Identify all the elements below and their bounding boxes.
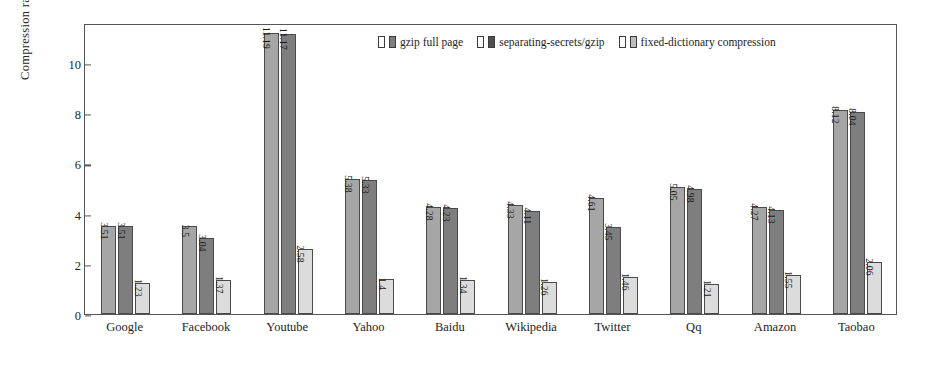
bar-group: 4.274.131.55 [752, 25, 801, 314]
bar-value-label: 8.12 [830, 107, 840, 124]
bar: 8.04 [850, 112, 865, 314]
bar-value-label: 11.17 [278, 28, 288, 50]
y-tick-label: 2 [55, 258, 81, 273]
bar: 11.19 [264, 33, 279, 314]
bar: 11.17 [281, 34, 296, 314]
bar-value-label: 5.38 [343, 175, 353, 192]
bar-group: 5.054.981.21 [670, 25, 719, 314]
legend-swatch-outline-icon [378, 36, 385, 48]
bar: 1.23 [135, 283, 150, 314]
bar-value-label: 1.26 [539, 279, 549, 296]
y-tick-label: 4 [55, 208, 81, 223]
bar: 1.21 [704, 284, 719, 314]
bar-value-label: 4.33 [505, 202, 515, 219]
bar-chart-figure: Compression ratio 0246810 3.513.511.233.… [0, 0, 935, 365]
bar-value-label: 4.13 [766, 207, 776, 224]
bar-value-label: 4.27 [749, 203, 759, 220]
bar-group: 3.513.511.23 [101, 25, 150, 314]
bar-group: 4.334.111.26 [508, 25, 557, 314]
bar-group: 11.1911.172.58 [264, 25, 313, 314]
legend-label: gzip full page [400, 36, 463, 48]
bar-series-container: 3.513.511.233.53.041.3711.1911.172.585.3… [85, 25, 896, 314]
y-tick-label: 8 [55, 108, 81, 123]
bar-value-label: 4.61 [586, 195, 596, 212]
bar-value-label: 5.05 [668, 184, 678, 201]
bar: 1.55 [786, 275, 801, 314]
bar: 8.12 [833, 110, 848, 314]
x-axis-label: Baidu [435, 320, 465, 335]
bar: 4.98 [687, 189, 702, 314]
bar: 2.06 [867, 262, 882, 314]
bar-value-label: 1.37 [214, 276, 224, 293]
x-axis-label: Youtube [266, 320, 308, 335]
bar: 3.04 [199, 238, 214, 314]
bar-group: 4.284.231.34 [426, 25, 475, 314]
legend-item: separating-secrets/gzip [477, 36, 604, 48]
bar: 3.5 [182, 226, 197, 314]
x-axis-label: Facebook [182, 320, 231, 335]
x-axis-label: Wikipedia [505, 320, 557, 335]
bar-value-label: 4.23 [441, 204, 451, 221]
bar: 2.58 [298, 249, 313, 314]
bar: 5.05 [670, 187, 685, 314]
bar: 4.28 [426, 207, 441, 314]
y-tick-label: 10 [55, 58, 81, 73]
legend-label: separating-secrets/gzip [499, 36, 604, 48]
legend-label: fixed-dictionary compression [641, 36, 776, 48]
x-axis-label: Twitter [594, 320, 630, 335]
bar-value-label: 3.04 [197, 234, 207, 251]
bar-group: 3.53.041.37 [182, 25, 231, 314]
bar-value-label: 1.46 [620, 274, 630, 291]
bar: 3.51 [101, 226, 116, 314]
legend-swatch-fill-icon [389, 36, 396, 48]
y-tick-label: 0 [55, 309, 81, 324]
bar: 4.23 [443, 208, 458, 314]
chart-legend: gzip full pageseparating-secrets/gzipfix… [378, 36, 785, 48]
bar-value-label: 1.55 [783, 271, 793, 288]
y-axis-title-wrap: Compression ratio [0, 0, 60, 365]
bar: 4.27 [752, 207, 767, 314]
x-axis-label: Taobao [838, 320, 875, 335]
bar: 4.11 [525, 211, 540, 314]
bar: 3.45 [606, 227, 621, 314]
legend-swatch-outline-icon [619, 36, 626, 48]
bar-value-label: 5.33 [360, 177, 370, 194]
bar: 4.33 [508, 205, 523, 314]
bar-value-label: 4.98 [685, 185, 695, 202]
legend-swatch-outline-icon [477, 36, 484, 48]
x-axis-label: Amazon [754, 320, 796, 335]
bar-value-label: 3.51 [116, 222, 126, 239]
bar-value-label: 2.06 [864, 259, 874, 276]
legend-swatch-fill-icon [488, 36, 495, 48]
bar-group: 4.613.451.46 [589, 25, 638, 314]
y-axis-title: Compression ratio [18, 0, 33, 80]
bar: 4.61 [589, 198, 604, 314]
bar: 1.34 [460, 280, 475, 314]
x-axis-label: Google [106, 320, 143, 335]
plot-area: 0246810 3.513.511.233.53.041.3711.1911.1… [84, 24, 897, 315]
bar: 4.13 [769, 210, 784, 314]
bar-value-label: 4.28 [424, 203, 434, 220]
bar-value-label: 8.04 [847, 109, 857, 126]
bar: 3.51 [118, 226, 133, 314]
bar: 1.26 [542, 282, 557, 314]
bar: 1.37 [216, 280, 231, 314]
y-tick-mark [85, 315, 91, 316]
bar-group: 8.128.042.06 [833, 25, 882, 314]
bar: 5.33 [362, 180, 377, 314]
bar-value-label: 1.21 [702, 280, 712, 297]
bar-value-label: 1.4 [377, 278, 387, 290]
x-axis-label: Qq [686, 320, 701, 335]
bar-value-label: 3.45 [603, 224, 613, 241]
bar: 5.38 [345, 179, 360, 314]
legend-item: gzip full page [378, 36, 463, 48]
bar-value-label: 1.34 [458, 277, 468, 294]
bar: 1.46 [623, 277, 638, 314]
legend-swatch-fill-icon [630, 36, 637, 48]
y-tick-label: 6 [55, 158, 81, 173]
bar-value-label: 1.23 [133, 279, 143, 296]
bar: 1.4 [379, 279, 394, 314]
bar-value-label: 2.58 [295, 246, 305, 263]
x-axis-label: Yahoo [353, 320, 385, 335]
legend-item: fixed-dictionary compression [619, 36, 776, 48]
